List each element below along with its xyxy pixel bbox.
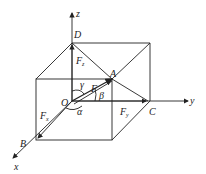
- force-Fx-label: Fx: [39, 110, 49, 122]
- force-Fy-label: Fy: [119, 106, 129, 118]
- line-AC: [112, 79, 148, 101]
- point-B: B: [20, 138, 26, 149]
- z-label: z: [75, 8, 80, 19]
- beta-label: β: [98, 90, 104, 101]
- force-F-label: F: [90, 83, 98, 94]
- gamma-label: γ: [80, 79, 85, 90]
- force-Fz-label: Fz: [75, 55, 85, 67]
- x-label: x: [13, 161, 19, 172]
- alpha-label: α: [77, 106, 83, 117]
- point-D: D: [73, 29, 82, 40]
- y-label: y: [189, 95, 195, 106]
- box-edge: [112, 101, 150, 140]
- point-C: C: [149, 106, 156, 117]
- point-O: O: [61, 97, 68, 108]
- force-diagram: z y x D A C B O F Fz Fy Fx γ β α: [0, 0, 206, 174]
- box-edge: [36, 43, 72, 79]
- box-edge: [112, 43, 150, 79]
- gamma-arc: [72, 90, 84, 94]
- point-A: A: [109, 68, 117, 79]
